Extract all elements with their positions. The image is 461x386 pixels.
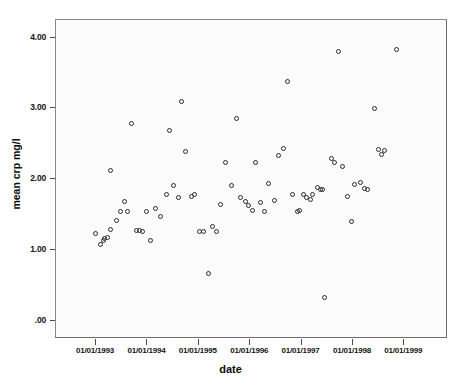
plot-frame xyxy=(55,19,447,338)
y-axis-tick-label: 3.00 xyxy=(30,102,46,112)
data-point xyxy=(98,242,103,247)
data-point xyxy=(250,208,255,213)
scatter-plot-chart: mean crp mg/l date 4.003.002.001.00.00 0… xyxy=(0,0,461,386)
data-point xyxy=(118,209,123,214)
data-point xyxy=(122,199,127,204)
data-point xyxy=(148,238,153,243)
data-point xyxy=(108,227,113,232)
data-point xyxy=(382,148,387,153)
x-axis-tick xyxy=(403,339,404,345)
y-axis-tick-label: .00 xyxy=(35,315,46,325)
data-point xyxy=(176,195,181,200)
data-point xyxy=(297,208,302,213)
data-point xyxy=(322,295,327,300)
x-axis-tick xyxy=(301,339,302,345)
data-point xyxy=(340,164,345,169)
data-point xyxy=(272,198,277,203)
x-axis-tick-label: 01/01/1997 xyxy=(282,346,320,355)
data-point xyxy=(218,202,223,207)
data-point xyxy=(379,152,384,157)
data-point xyxy=(349,219,354,224)
x-axis-tick-label: 01/01/1995 xyxy=(179,346,217,355)
data-point xyxy=(276,153,281,158)
x-axis-tick-label: 01/01/1996 xyxy=(230,346,268,355)
data-point xyxy=(365,187,370,192)
x-axis-tick-label: 01/01/1993 xyxy=(76,346,114,355)
data-point xyxy=(164,192,169,197)
data-point xyxy=(258,200,263,205)
x-axis-tick xyxy=(95,339,96,345)
data-point xyxy=(206,271,211,276)
x-axis-tick xyxy=(352,339,353,345)
data-point xyxy=(290,192,295,197)
data-point xyxy=(167,128,172,133)
data-point xyxy=(158,214,163,219)
data-point xyxy=(358,180,363,185)
data-point xyxy=(266,181,271,186)
data-point xyxy=(129,121,134,126)
data-point xyxy=(108,168,113,173)
data-point xyxy=(285,79,290,84)
data-point xyxy=(234,116,239,121)
x-axis-tick xyxy=(198,339,199,345)
y-axis-title: mean crp mg/l xyxy=(10,114,22,234)
data-point xyxy=(332,160,337,165)
x-axis-tick-label: 01/01/1999 xyxy=(384,346,422,355)
data-point xyxy=(192,192,197,197)
data-point xyxy=(253,160,258,165)
data-point xyxy=(153,206,158,211)
x-axis-tick-label: 01/01/1994 xyxy=(127,346,165,355)
x-axis-title: date xyxy=(0,363,461,375)
x-axis-tick xyxy=(146,339,147,345)
data-point xyxy=(105,235,110,240)
data-point xyxy=(394,47,399,52)
data-point xyxy=(372,106,377,111)
data-point xyxy=(144,209,149,214)
data-point xyxy=(320,187,325,192)
data-point xyxy=(336,49,341,54)
data-point xyxy=(93,231,98,236)
plot-data-area xyxy=(56,20,446,337)
data-point xyxy=(229,183,234,188)
data-point xyxy=(114,218,119,223)
y-axis-tick-label: 4.00 xyxy=(30,32,46,42)
x-axis-tick-label: 01/01/1998 xyxy=(333,346,371,355)
data-point xyxy=(345,194,350,199)
data-point xyxy=(262,209,267,214)
y-axis-tick-label: 1.00 xyxy=(30,244,46,254)
x-axis-tick xyxy=(249,339,250,345)
data-point xyxy=(281,146,286,151)
data-point xyxy=(201,229,206,234)
data-point xyxy=(210,224,215,229)
data-point xyxy=(179,99,184,104)
data-point xyxy=(352,182,357,187)
data-point xyxy=(308,197,313,202)
data-point xyxy=(183,149,188,154)
y-axis-tick-label: 2.00 xyxy=(30,173,46,183)
data-point xyxy=(140,229,145,234)
data-point xyxy=(171,183,176,188)
data-point xyxy=(310,192,315,197)
data-point xyxy=(214,229,219,234)
data-point xyxy=(223,160,228,165)
data-point xyxy=(125,209,130,214)
